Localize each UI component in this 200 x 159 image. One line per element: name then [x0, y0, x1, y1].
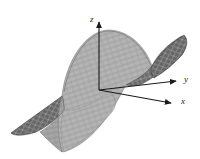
x-axis-label: x	[181, 97, 185, 106]
surface-right-lobe-tip	[151, 35, 187, 78]
surface-plot-canvas	[0, 0, 200, 159]
surface-plot-figure: z y x	[0, 0, 200, 159]
z-axis-label: z	[90, 15, 94, 24]
y-axis-label: y	[184, 75, 188, 84]
